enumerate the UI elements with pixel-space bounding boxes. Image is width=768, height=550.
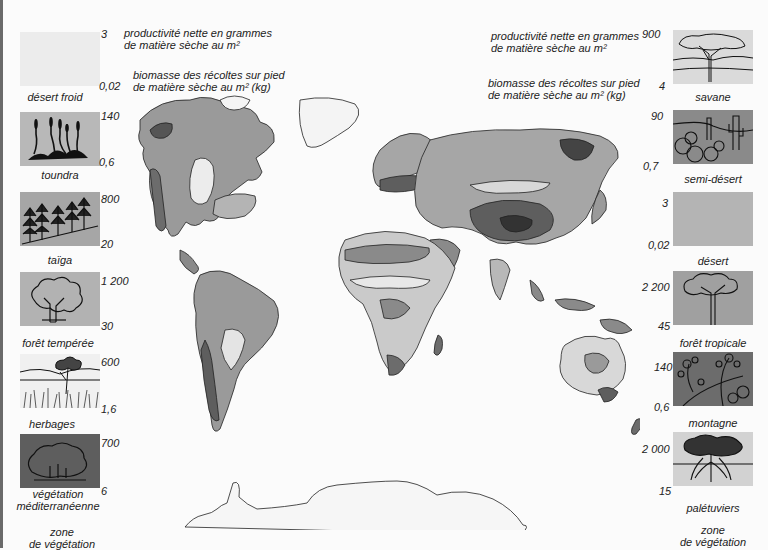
header-text: productivité nette en grammes: [491, 30, 639, 42]
productivity-value: 800: [101, 193, 119, 205]
zone-name: palétuviers: [658, 502, 768, 514]
swatch-montagne: [673, 352, 753, 406]
productivity-value: 2 000: [642, 443, 670, 455]
header-left-productivity: productivité nette en grammes de matière…: [124, 27, 272, 51]
swatch-toundra: [20, 112, 100, 166]
zone-name: forêt tempérée: [3, 337, 113, 349]
productivity-value: 600: [101, 356, 119, 368]
footer-left: zone de végétation: [7, 526, 117, 550]
header-text: de matière sèche au m²: [491, 42, 639, 54]
grass-tufts-icon: [20, 112, 100, 166]
swatch-paletuviers: [673, 432, 753, 486]
zone-name: végétation méditerranéenne: [0, 488, 118, 512]
mangrove-icon: [673, 432, 753, 486]
grassland-tree-icon: [20, 354, 100, 408]
swatch-foret-tropicale: [673, 271, 753, 325]
swatch-taiga: [20, 192, 100, 246]
tall-tree-icon: [673, 271, 753, 325]
zone-name: forêt tropicale: [658, 337, 768, 349]
productivity-value: 3: [662, 197, 668, 209]
biomass-value: 1,6: [101, 403, 116, 415]
biomass-value: 0,7: [643, 160, 658, 172]
header-right-productivity: productivité nette en grammes de matière…: [491, 30, 639, 54]
footer-text: de végétation: [7, 538, 117, 550]
zone-name: herbages: [0, 418, 107, 430]
greenland: [299, 98, 359, 148]
productivity-value: 900: [642, 28, 660, 40]
cactus-icon: [673, 110, 753, 164]
zone-name: savane: [658, 91, 768, 103]
swatch-foret-temperee: [20, 272, 100, 326]
swatch-semi-desert: [673, 110, 753, 164]
swatch-savane: [673, 30, 753, 84]
biomass-value: 0,6: [99, 156, 114, 168]
footer-text: de végétation: [658, 536, 768, 548]
productivity-value: 140: [654, 361, 672, 373]
biomass-value: 0,02: [648, 239, 669, 251]
biomass-value: 20: [101, 238, 113, 250]
zone-name: montagne: [658, 417, 768, 429]
swatch-desert: [673, 192, 753, 246]
acacia-icon: [673, 30, 753, 84]
biomass-value: 30: [101, 320, 113, 332]
productivity-value: 2 200: [642, 281, 670, 293]
swatch-desert-froid: [20, 32, 100, 86]
biomass-value: 15: [659, 485, 671, 497]
deciduous-tree-icon: [20, 272, 100, 326]
zone-name: semi-désert: [658, 173, 768, 185]
footer-text: zone: [658, 524, 768, 536]
productivity-value: 90: [651, 110, 663, 122]
swatch-herbages: [20, 354, 100, 408]
productivity-value: 140: [101, 110, 119, 122]
shrub-icon: [20, 434, 100, 488]
conifers-icon: [20, 192, 100, 246]
productivity-value: 3: [101, 28, 107, 40]
zone-name: taïga: [5, 254, 115, 266]
alpine-flowers-icon: [673, 352, 753, 406]
page-edge: [0, 0, 3, 548]
zone-name: désert: [658, 255, 768, 267]
world-vegetation-map: [120, 80, 640, 530]
biomass-value: 0,6: [654, 401, 669, 413]
biomass-value: 45: [658, 320, 670, 332]
header-text: de matière sèche au m²: [124, 39, 272, 51]
zone-name: toundra: [5, 169, 115, 181]
antarctica: [185, 481, 527, 530]
zone-name: désert froid: [0, 91, 110, 103]
footer-right: zone de végétation: [658, 524, 768, 548]
swatch-vegetation-mediterraneenne: [20, 434, 100, 488]
productivity-value: 700: [101, 437, 119, 449]
header-text: productivité nette en grammes: [124, 27, 272, 39]
footer-text: zone: [7, 526, 117, 538]
